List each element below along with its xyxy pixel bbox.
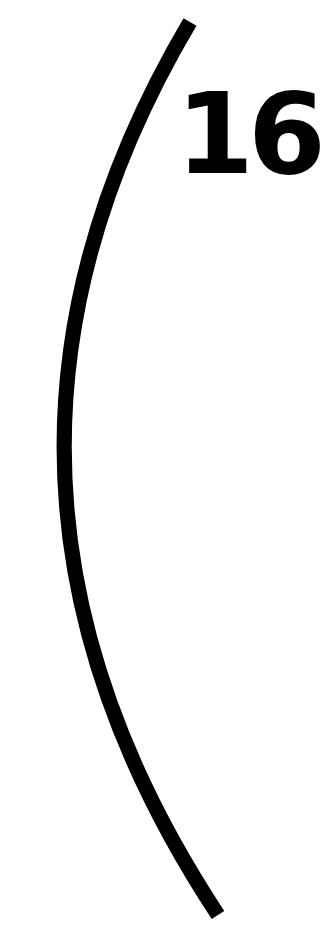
page-number: 16 — [176, 78, 320, 190]
